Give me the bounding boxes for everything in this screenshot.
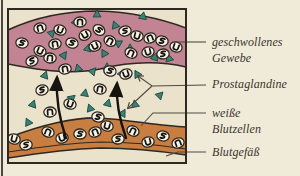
- white-blood-cell: [43, 52, 56, 63]
- white-blood-cell: [111, 133, 124, 144]
- label-prostaglandins: Prostaglandine: [212, 77, 287, 93]
- label-swollen-tissue: geschwollenes Gewebe: [212, 35, 283, 66]
- label-blood-vessel: Blutgefäß: [212, 145, 260, 161]
- white-blood-cell: [156, 48, 169, 59]
- white-blood-cell: [43, 106, 56, 117]
- label-white-blood-cells: weiße Blutzellen: [212, 106, 261, 137]
- white-blood-cell: [74, 17, 86, 27]
- inflammation-diagram: geschwollenes Gewebe Prostaglandine weiß…: [0, 0, 300, 176]
- white-blood-cell: [73, 128, 86, 139]
